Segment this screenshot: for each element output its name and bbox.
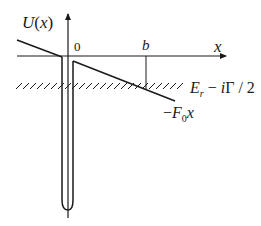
origin-label: 0: [74, 39, 81, 54]
left-potential-line: [17, 40, 62, 57]
field-label: −F0x: [163, 104, 194, 124]
energy-level-label: Er − iΓ / 2: [189, 79, 255, 99]
b-label: b: [142, 37, 150, 53]
y-axis-label: U(x): [22, 13, 53, 32]
right-potential-line: [73, 61, 175, 101]
x-axis-label: x: [213, 37, 222, 56]
hatched-energy-level: [16, 83, 183, 89]
potential-diagram: U(x) 0 b x Er − iΓ / 2 −F0x: [0, 0, 261, 226]
